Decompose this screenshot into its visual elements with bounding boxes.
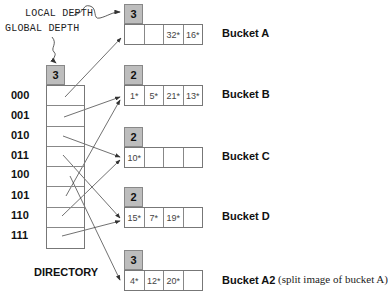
directory-cell-000 — [47, 86, 84, 106]
bucket-slot: 16* — [184, 25, 203, 44]
directory-key-111: 111 — [11, 229, 41, 241]
bucket-a-label: Bucket A — [222, 27, 269, 39]
directory — [46, 85, 85, 249]
bucket-c-local-depth: 2 — [124, 127, 143, 147]
bucket-slot: 21* — [164, 86, 184, 105]
bucket-slot — [184, 271, 203, 290]
bucket-slot — [184, 208, 203, 227]
extendible-hashing-diagram: LOCAL DEPTH GLOBAL DEPTH 3 000 001 010 0… — [0, 0, 388, 301]
bucket-d-label: Bucket D — [222, 210, 270, 222]
directory-cell-001 — [47, 106, 84, 126]
bucket-slot: 13* — [184, 86, 203, 105]
local-depth-label: LOCAL DEPTH — [25, 8, 93, 19]
directory-key-101: 101 — [11, 189, 41, 201]
bucket-slot: 10* — [125, 148, 145, 167]
bucket-slot: 12* — [145, 271, 165, 290]
bucket-a: 32* 16* — [124, 24, 203, 45]
bucket-slot: 20* — [164, 271, 184, 290]
bucket-b-local-depth: 2 — [124, 65, 143, 85]
bucket-slot — [145, 25, 165, 44]
bucket-slot: 19* — [164, 208, 184, 227]
bucket-a2-local-depth: 3 — [124, 250, 143, 270]
bucket-c: 10* — [124, 147, 203, 168]
directory-cell-111 — [47, 228, 84, 248]
global-depth-label: GLOBAL DEPTH — [5, 23, 79, 34]
directory-cell-101 — [47, 187, 84, 207]
directory-cell-011 — [47, 147, 84, 167]
directory-key-110: 110 — [11, 209, 41, 221]
directory-key-100: 100 — [11, 168, 41, 180]
bucket-slot — [145, 148, 165, 167]
bucket-d: 15* 7* 19* — [124, 207, 203, 228]
bucket-slot — [184, 148, 203, 167]
directory-key-011: 011 — [11, 149, 41, 161]
bucket-b-label: Bucket B — [222, 88, 270, 100]
bucket-slot: 7* — [145, 208, 165, 227]
directory-cell-110 — [47, 208, 84, 228]
bucket-a2-label: Bucket A2 — [222, 274, 275, 286]
directory-label: DIRECTORY — [34, 266, 98, 278]
bucket-slot: 15* — [125, 208, 145, 227]
bucket-a-local-depth: 3 — [124, 4, 143, 24]
bucket-a2-note: (split image of bucket A) — [278, 273, 388, 285]
bucket-slot: 4* — [125, 271, 145, 290]
directory-key-010: 010 — [11, 129, 41, 141]
bucket-c-label: Bucket C — [222, 150, 270, 162]
bucket-a2: 4* 12* 20* — [124, 270, 203, 291]
directory-cell-010 — [47, 127, 84, 147]
directory-key-001: 001 — [11, 109, 41, 121]
directory-cell-100 — [47, 167, 84, 187]
bucket-slot: 5* — [145, 86, 165, 105]
global-depth-pointer — [52, 37, 56, 63]
bucket-slot: 32* — [164, 25, 184, 44]
bucket-slot: 1* — [125, 86, 145, 105]
directory-key-000: 000 — [11, 89, 41, 101]
global-depth-value: 3 — [46, 65, 65, 85]
bucket-slot — [125, 25, 145, 44]
bucket-d-local-depth: 2 — [124, 187, 143, 207]
bucket-slot — [164, 148, 184, 167]
bucket-b: 1* 5* 21* 13* — [124, 85, 203, 106]
